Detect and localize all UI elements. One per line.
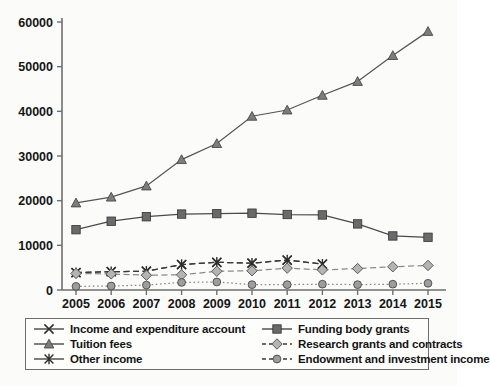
- y-tick-label: 30000: [18, 150, 53, 164]
- x-tick-label: 2011: [274, 297, 301, 311]
- marker-circle: [143, 281, 151, 289]
- x-tick-label: 2005: [62, 297, 90, 311]
- marker-circle: [283, 281, 291, 289]
- marker-triangle: [423, 27, 433, 36]
- marker-circle: [273, 355, 281, 363]
- y-tick-label: 40000: [18, 105, 53, 119]
- marker-diamond: [212, 266, 222, 276]
- marker-triangle: [353, 77, 363, 86]
- marker-circle: [213, 278, 221, 286]
- legend-label: Endowment and investment income: [298, 353, 490, 365]
- marker-diamond: [388, 262, 398, 272]
- marker-circle: [354, 281, 362, 289]
- marker-triangle: [282, 105, 292, 114]
- x-tick-label: 2006: [97, 297, 125, 311]
- asterisk-icon: [32, 352, 66, 366]
- marker-square: [72, 226, 80, 234]
- series-3: [72, 209, 432, 242]
- marker-triangle: [142, 181, 152, 190]
- marker-square: [213, 209, 221, 217]
- marker-square: [318, 211, 326, 219]
- y-tick-label: 20000: [18, 194, 53, 208]
- marker-square: [107, 217, 115, 225]
- line-chart: 0100002000030000400005000060000200520062…: [0, 0, 457, 318]
- marker-square: [424, 233, 432, 241]
- y-tick-label: 50000: [18, 60, 53, 74]
- legend-label: Funding body grants: [298, 323, 410, 335]
- marker-circle: [248, 281, 256, 289]
- marker-triangle: [212, 139, 222, 148]
- legend-label: Tuition fees: [70, 338, 132, 350]
- y-tick-label: 10000: [18, 239, 53, 253]
- marker-circle: [107, 282, 115, 290]
- legend-label: Other income: [70, 353, 142, 365]
- marker-square: [353, 220, 361, 228]
- legend-item[interactable]: Endowment and investment income: [260, 352, 490, 367]
- x-tick-label: 2012: [308, 297, 336, 311]
- y-tick-label: 0: [46, 284, 53, 298]
- diamond-icon: [260, 337, 294, 351]
- marker-circle: [178, 279, 186, 287]
- marker-diamond: [352, 263, 362, 273]
- marker-triangle: [388, 51, 398, 60]
- marker-square: [177, 210, 185, 218]
- x-tick-label: 2009: [203, 297, 231, 311]
- legend-label: Research grants and contracts: [298, 338, 462, 350]
- series-1: [71, 27, 433, 207]
- marker-circle: [389, 280, 397, 288]
- marker-diamond: [272, 339, 282, 349]
- x-tick-label: 2014: [379, 297, 407, 311]
- marker-diamond: [106, 269, 116, 279]
- chart-legend: Income and expenditure accountFunding bo…: [25, 318, 429, 370]
- x-tick-label: 2007: [132, 297, 160, 311]
- circle-icon: [260, 352, 294, 366]
- x-tick-label: 2013: [344, 297, 372, 311]
- legend-item[interactable]: Funding body grants: [260, 321, 490, 336]
- legend-label: Income and expenditure account: [70, 323, 245, 335]
- x-tick-label: 2010: [238, 297, 266, 311]
- chart-canvas: 0100002000030000400005000060000200520062…: [0, 0, 457, 318]
- series-5: [72, 278, 432, 290]
- x-cross-icon: [32, 322, 66, 336]
- marker-circle: [424, 279, 432, 287]
- marker-circle: [319, 280, 327, 288]
- legend-item[interactable]: Income and expenditure account: [32, 321, 260, 336]
- marker-triangle: [318, 90, 328, 99]
- marker-square: [248, 209, 256, 217]
- y-tick-label: 60000: [18, 16, 53, 30]
- marker-triangle: [106, 192, 116, 201]
- marker-triangle: [177, 155, 187, 164]
- marker-square: [283, 210, 291, 218]
- triangle-icon: [32, 337, 66, 351]
- x-tick-label: 2008: [168, 297, 196, 311]
- legend-item[interactable]: Tuition fees: [32, 336, 260, 351]
- square-icon: [260, 322, 294, 336]
- marker-diamond: [317, 265, 327, 275]
- marker-square: [142, 213, 150, 221]
- marker-circle: [72, 283, 80, 291]
- x-tick-label: 2015: [414, 297, 442, 311]
- legend-item[interactable]: Research grants and contracts: [260, 336, 490, 351]
- legend-item[interactable]: Other income: [32, 352, 260, 367]
- marker-square: [273, 324, 281, 332]
- marker-diamond: [423, 260, 433, 270]
- marker-square: [389, 232, 397, 240]
